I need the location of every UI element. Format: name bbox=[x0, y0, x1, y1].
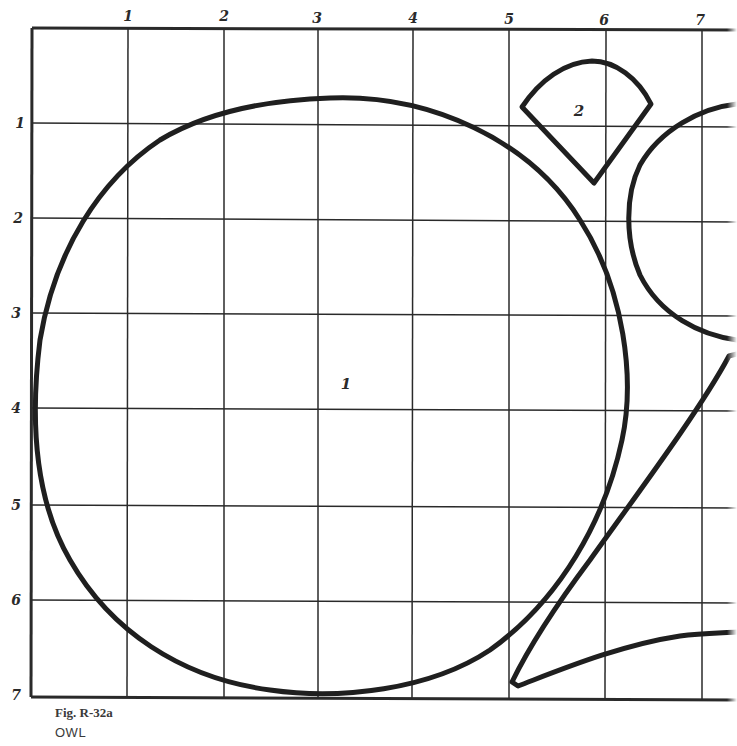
piece-2-wedge bbox=[522, 61, 651, 183]
column-label-1: 1 bbox=[123, 8, 133, 24]
column-label-3: 3 bbox=[312, 10, 322, 26]
row-label-7: 7 bbox=[11, 687, 21, 703]
figure-number: Fig. R-32a bbox=[55, 705, 113, 721]
row-label-6: 6 bbox=[11, 592, 21, 608]
row-label-2: 2 bbox=[13, 210, 23, 226]
column-label-2: 2 bbox=[219, 8, 229, 24]
pattern-grid-figure: 1 2 3 4 5 6 7 1 2 3 4 5 6 7 1 2 Fig. R-3… bbox=[0, 0, 737, 746]
figure-title: OWL bbox=[55, 725, 113, 740]
column-label-5: 5 bbox=[504, 11, 514, 27]
piece-2-label: 2 bbox=[574, 102, 584, 120]
row-label-4: 4 bbox=[11, 400, 21, 416]
piece-1-circle bbox=[35, 98, 627, 694]
column-label-7: 7 bbox=[695, 12, 705, 28]
row-label-5: 5 bbox=[11, 497, 21, 513]
grid-drawing bbox=[0, 0, 737, 746]
figure-caption: Fig. R-32a OWL bbox=[55, 705, 113, 740]
row-label-1: 1 bbox=[15, 115, 25, 131]
page-edge-fade bbox=[727, 0, 737, 746]
column-label-6: 6 bbox=[599, 12, 609, 28]
row-label-3: 3 bbox=[11, 305, 21, 321]
column-label-4: 4 bbox=[408, 10, 418, 26]
piece-1-label: 1 bbox=[341, 375, 351, 393]
